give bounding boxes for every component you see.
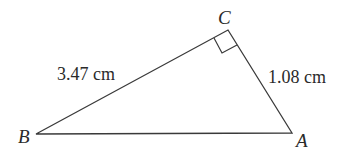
- side-length-ca: 1.08 cm: [268, 68, 326, 86]
- side-length-bc: 3.47 cm: [57, 65, 115, 83]
- vertex-label-a: A: [296, 131, 308, 150]
- right-angle-marker: [214, 38, 237, 53]
- vertex-label-b: B: [18, 127, 30, 146]
- triangle-diagram: C B A 3.47 cm 1.08 cm: [0, 0, 349, 158]
- vertex-label-c: C: [218, 8, 231, 27]
